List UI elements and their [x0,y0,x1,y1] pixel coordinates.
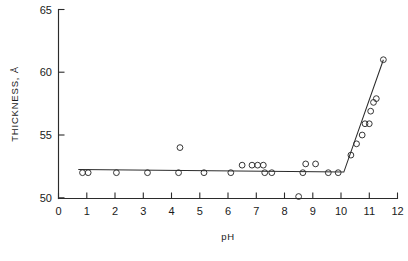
x-tick-label-2: 2 [112,205,118,217]
data-point-group [80,57,387,200]
data-point [262,170,268,176]
x-tick-label-11: 11 [364,205,375,217]
y-tick-label-55: 55 [40,129,52,141]
data-point [177,145,183,151]
x-tick-label-6: 6 [225,205,231,217]
data-point [85,170,91,176]
y-tick-label-50: 50 [40,192,52,204]
data-point [359,132,365,138]
data-point [239,162,245,168]
y-tick-label-60: 60 [40,66,52,78]
data-point [300,170,306,176]
x-tick-label-12: 12 [391,205,403,217]
data-point [325,170,331,176]
data-point [366,121,372,127]
data-point [114,170,120,176]
x-tick-label-1: 1 [84,205,90,217]
fitted-trend-line [78,60,383,172]
x-tick-label-0: 0 [55,205,61,217]
data-point [260,162,266,168]
x-tick-label-7: 7 [253,205,259,217]
x-tick-label-8: 8 [281,205,287,217]
x-tick-label-10: 10 [335,205,347,217]
y-axis-title: THICKNESS, Å [9,66,20,142]
data-point [354,141,360,147]
thickness-vs-ph-chart: 65 60 55 50 THICKNESS, Å 0 1 2 3 [0,0,408,261]
x-axis-title: pH [221,231,235,242]
x-axis [59,193,398,199]
data-point [249,162,255,168]
data-point [313,161,319,167]
data-point [335,170,341,176]
y-tick-labels: 65 60 55 50 [40,4,52,204]
x-tick-label-5: 5 [197,205,203,217]
x-tick-label-9: 9 [310,205,316,217]
data-point [269,170,275,176]
y-tick-label-65: 65 [40,4,52,16]
data-point [303,161,309,167]
data-point [255,162,261,168]
x-tick-label-4: 4 [168,205,174,217]
data-point [80,170,86,176]
chart-canvas: 65 60 55 50 THICKNESS, Å 0 1 2 3 [0,0,408,261]
data-point [368,108,374,114]
x-tick-labels: 0 1 2 3 4 5 6 7 8 9 10 11 12 [55,205,403,217]
x-tick-label-3: 3 [140,205,146,217]
y-axis [59,10,65,199]
